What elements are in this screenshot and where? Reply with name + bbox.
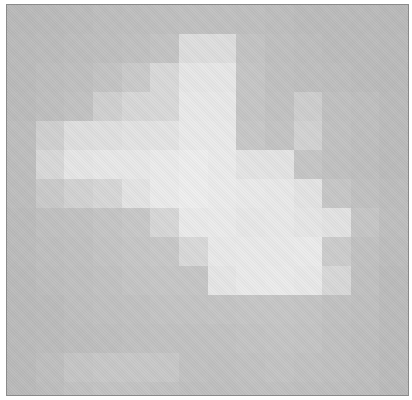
image-frame	[6, 4, 409, 396]
pixel-cell	[236, 353, 265, 382]
pixel-cell	[351, 5, 379, 34]
pixel-cell	[379, 179, 408, 208]
pixel-cell	[236, 5, 265, 34]
pixel-cell	[122, 237, 150, 266]
pixel-cell	[208, 121, 236, 150]
pixel-cell	[236, 208, 265, 237]
pixel-cell	[179, 237, 208, 266]
pixel-cell	[122, 382, 150, 396]
pixel-cell	[265, 208, 294, 237]
pixel-cell	[64, 353, 93, 382]
pixel-cell	[294, 382, 322, 396]
pixel-cell	[179, 121, 208, 150]
pixel-cell	[36, 63, 64, 92]
pixel-cell	[265, 266, 294, 295]
pixel-cell	[351, 121, 379, 150]
pixel-cell	[179, 63, 208, 92]
pixel-cell	[236, 237, 265, 266]
pixel-cell	[236, 92, 265, 121]
pixel-cell	[36, 353, 64, 382]
pixel-cell	[294, 92, 322, 121]
pixel-cell	[322, 237, 351, 266]
pixel-cell	[294, 266, 322, 295]
pixel-cell	[379, 353, 408, 382]
pixel-cell	[322, 63, 351, 92]
pixel-cell	[93, 92, 122, 121]
pixel-cell	[36, 5, 64, 34]
pixel-cell	[294, 295, 322, 324]
pixel-cell	[122, 179, 150, 208]
pixel-cell	[351, 179, 379, 208]
pixel-cell	[150, 179, 179, 208]
pixel-cell	[7, 34, 36, 63]
pixel-cell	[351, 324, 379, 353]
pixel-cell	[265, 121, 294, 150]
pixel-cell	[7, 353, 36, 382]
pixel-cell	[7, 150, 36, 179]
pixel-cell	[64, 208, 93, 237]
pixel-grid	[7, 5, 408, 395]
pixel-cell	[208, 208, 236, 237]
pixel-cell	[322, 34, 351, 63]
pixel-cell	[64, 121, 93, 150]
pixel-cell	[208, 382, 236, 396]
pixel-cell	[379, 34, 408, 63]
pixel-cell	[379, 295, 408, 324]
pixel-cell	[36, 237, 64, 266]
pixel-cell	[265, 324, 294, 353]
pixel-cell	[179, 324, 208, 353]
pixel-cell	[179, 179, 208, 208]
pixel-cell	[93, 121, 122, 150]
pixel-cell	[7, 63, 36, 92]
pixel-cell	[208, 34, 236, 63]
pixel-cell	[150, 92, 179, 121]
pixel-cell	[7, 295, 36, 324]
pixel-cell	[93, 353, 122, 382]
pixel-cell	[208, 92, 236, 121]
pixel-cell	[179, 382, 208, 396]
pixel-cell	[36, 179, 64, 208]
pixel-cell	[64, 34, 93, 63]
pixel-cell	[265, 5, 294, 34]
pixel-cell	[64, 237, 93, 266]
pixel-cell	[64, 324, 93, 353]
pixel-cell	[294, 63, 322, 92]
pixel-cell	[93, 208, 122, 237]
pixel-cell	[93, 324, 122, 353]
pixel-cell	[322, 208, 351, 237]
pixel-cell	[122, 295, 150, 324]
pixel-cell	[294, 121, 322, 150]
pixel-cell	[322, 121, 351, 150]
pixel-cell	[64, 150, 93, 179]
pixel-cell	[179, 34, 208, 63]
pixel-cell	[150, 121, 179, 150]
pixel-cell	[322, 295, 351, 324]
pixel-cell	[379, 150, 408, 179]
pixel-cell	[322, 5, 351, 34]
pixel-cell	[294, 324, 322, 353]
pixel-cell	[351, 266, 379, 295]
pixel-cell	[379, 266, 408, 295]
pixel-cell	[208, 295, 236, 324]
pixel-cell	[179, 295, 208, 324]
pixel-cell	[36, 92, 64, 121]
pixel-cell	[93, 179, 122, 208]
pixel-cell	[93, 237, 122, 266]
pixel-cell	[7, 382, 36, 396]
pixel-cell	[7, 179, 36, 208]
pixel-cell	[236, 34, 265, 63]
pixel-cell	[322, 382, 351, 396]
pixel-cell	[351, 382, 379, 396]
pixel-cell	[236, 179, 265, 208]
pixel-cell	[294, 5, 322, 34]
pixel-cell	[294, 150, 322, 179]
pixel-cell	[236, 63, 265, 92]
pixel-cell	[7, 266, 36, 295]
pixel-cell	[322, 324, 351, 353]
pixel-cell	[379, 324, 408, 353]
pixel-cell	[322, 150, 351, 179]
pixel-cell	[379, 208, 408, 237]
pixel-cell	[236, 324, 265, 353]
pixel-cell	[208, 237, 236, 266]
pixel-cell	[322, 353, 351, 382]
